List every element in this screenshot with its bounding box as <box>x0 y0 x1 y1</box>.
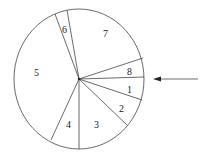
slice-label-3: 3 <box>94 119 99 130</box>
arrow-indicator <box>153 77 198 82</box>
slice-label-2: 2 <box>119 103 124 114</box>
slice-label-8: 8 <box>127 66 132 77</box>
pie-diagram: 8 1 2 3 4 5 6 7 <box>0 0 205 158</box>
slice-label-6: 6 <box>62 24 67 35</box>
slice-label-5: 5 <box>34 67 39 78</box>
slice-label-4: 4 <box>66 119 71 130</box>
slice-label-1: 1 <box>127 84 132 95</box>
slice-label-7: 7 <box>103 28 108 39</box>
pie-center <box>78 78 80 80</box>
arrow-head-icon <box>153 77 161 82</box>
